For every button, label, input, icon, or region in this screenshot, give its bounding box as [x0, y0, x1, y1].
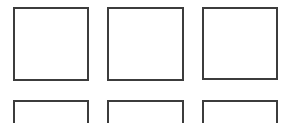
- box-r1-c1: [13, 7, 89, 81]
- box-r2-c3: [202, 100, 278, 123]
- box-r1-c3: [202, 7, 278, 80]
- box-r2-c2: [107, 100, 184, 123]
- box-r2-c1: [13, 100, 89, 123]
- box-r1-c2: [107, 7, 184, 81]
